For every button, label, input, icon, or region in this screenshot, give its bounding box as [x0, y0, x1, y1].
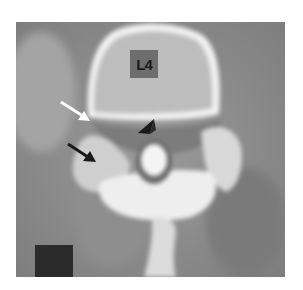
- scale-marker: [35, 245, 73, 277]
- spinal-canal: [136, 140, 172, 184]
- vertebra-label: L4: [136, 56, 152, 73]
- vertebra-label-box: L4: [130, 50, 158, 78]
